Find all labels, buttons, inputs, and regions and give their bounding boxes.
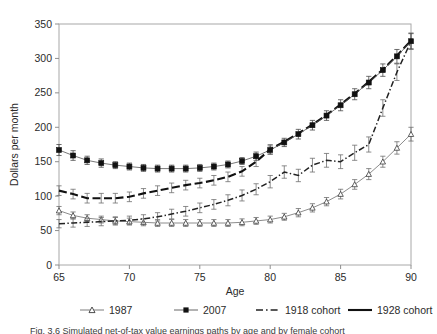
marker-1987 [70, 213, 75, 218]
marker-2007 [197, 165, 202, 170]
marker-2007 [155, 166, 160, 171]
x-axis-title: Age [226, 285, 245, 297]
marker-1987 [408, 131, 413, 136]
marker-1987 [56, 208, 61, 213]
x-tick-label: 65 [53, 271, 65, 283]
marker-2007 [57, 148, 62, 153]
x-tick-label: 90 [405, 271, 417, 283]
y-tick-label: 0 [46, 259, 52, 271]
y-tick-label: 250 [34, 86, 52, 98]
marker-1987 [352, 182, 357, 187]
marker-2007 [338, 103, 343, 108]
marker-2007 [99, 161, 104, 166]
plot-frame [59, 24, 411, 265]
y-tick-label: 200 [34, 121, 52, 133]
marker-2007 [141, 165, 146, 170]
legend-label: 1987 [109, 304, 133, 316]
legend-item[interactable]: 1918 cohort [256, 304, 341, 316]
marker-2007 [225, 162, 230, 167]
y-tick-label: 50 [40, 224, 52, 236]
legend-item[interactable]: 1987 [80, 304, 133, 316]
marker-2007 [310, 123, 315, 128]
marker-2007 [268, 148, 273, 153]
marker-2007 [366, 80, 371, 85]
chart-legend: 198720071918 cohort1928 cohort [0, 300, 437, 318]
figure-container: 050100150200250300350657075808590AgeDoll… [0, 0, 437, 334]
x-tick-label: 70 [124, 271, 136, 283]
series-line-1928-cohort [59, 41, 411, 199]
y-tick-label: 100 [34, 190, 52, 202]
marker-2007 [254, 154, 259, 159]
marker-2007 [380, 68, 385, 73]
legend-label: 1918 cohort [285, 304, 341, 316]
legend-marker-filled-square [183, 307, 188, 312]
marker-2007 [324, 113, 329, 118]
marker-1987 [324, 199, 329, 204]
legend-item[interactable]: 1928 cohort [348, 304, 433, 316]
legend-label: 1928 cohort [377, 304, 433, 316]
series-line-1987 [59, 134, 411, 223]
legend-label: 2007 [203, 304, 227, 316]
marker-2007 [394, 54, 399, 59]
marker-1987 [310, 205, 315, 210]
marker-2007 [296, 132, 301, 137]
x-tick-label: 80 [264, 271, 276, 283]
marker-2007 [211, 164, 216, 169]
legend-item[interactable]: 2007 [174, 304, 227, 316]
marker-2007 [169, 166, 174, 171]
figure-caption-strip: Fig. 3.6 Simulated net-of-tax value earn… [0, 326, 437, 334]
line-chart: 050100150200250300350657075808590AgeDoll… [0, 0, 437, 300]
y-tick-label: 300 [34, 52, 52, 64]
series-line-2007 [59, 41, 411, 168]
marker-2007 [183, 166, 188, 171]
x-tick-label: 85 [335, 271, 347, 283]
marker-2007 [85, 158, 90, 163]
marker-2007 [282, 140, 287, 145]
y-tick-label: 350 [34, 18, 52, 30]
marker-2007 [409, 39, 414, 44]
x-tick-label: 75 [194, 271, 206, 283]
figure-caption: Fig. 3.6 Simulated net-of-tax value earn… [30, 326, 437, 334]
marker-2007 [127, 164, 132, 169]
marker-2007 [113, 163, 118, 168]
marker-2007 [71, 153, 76, 158]
marker-2007 [240, 159, 245, 164]
marker-1987 [296, 210, 301, 215]
series-line-1918-cohort [59, 41, 411, 223]
y-axis-title: Dollars per month [8, 103, 20, 186]
y-tick-label: 150 [34, 155, 52, 167]
marker-2007 [352, 92, 357, 97]
marker-1987 [338, 191, 343, 196]
